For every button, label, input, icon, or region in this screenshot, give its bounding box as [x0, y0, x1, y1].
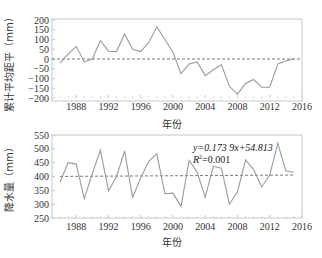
- bottom-x-axis-label: 年份: [162, 236, 182, 248]
- x-tick-label: 2000: [163, 221, 183, 232]
- x-tick-label: 2016: [292, 221, 312, 232]
- figure: 200150100500−50−100−150−200 198819921996…: [0, 0, 322, 258]
- x-tick-label: 2004: [195, 221, 215, 232]
- x-tick-label: 1988: [66, 101, 86, 112]
- x-tick-label: 2008: [227, 221, 247, 232]
- top-x-axis-label: 年份: [162, 118, 182, 130]
- y-tick-label: 550: [34, 130, 49, 141]
- y-tick-label: 400: [34, 171, 49, 182]
- y-tick-label: 350: [34, 185, 49, 196]
- x-tick-label: 2000: [163, 101, 183, 112]
- x-tick-label: 1992: [98, 101, 118, 112]
- top-x-axis-ticks: 19881992199620002004200820122016: [60, 95, 312, 112]
- x-tick-label: 1996: [131, 101, 151, 112]
- x-tick-label: 2008: [227, 101, 247, 112]
- x-tick-label: 1996: [131, 221, 151, 232]
- x-tick-label: 2016: [292, 101, 312, 112]
- y-tick-label: 450: [34, 157, 49, 168]
- trend-equation: y=0.173 9x+54.813: [192, 142, 273, 153]
- y-tick-label: 500: [34, 143, 49, 154]
- top-series-line: [60, 27, 294, 94]
- y-tick-label: −200: [28, 93, 49, 104]
- x-tick-label: 2012: [260, 101, 280, 112]
- top-y-axis-ticks: 200150100500−50−100−150−200: [28, 15, 55, 104]
- y-tick-label: 300: [34, 199, 49, 210]
- x-tick-label: 2012: [260, 221, 280, 232]
- bottom-y-axis-label: 降水量（mm）: [3, 142, 15, 211]
- top-chart-cumulative-anomaly: 200150100500−50−100−150−200 198819921996…: [3, 12, 312, 130]
- x-tick-label: 1992: [98, 221, 118, 232]
- trend-r2: R2=0.001: [192, 154, 230, 165]
- x-tick-label: 2004: [195, 101, 215, 112]
- top-y-axis-label: 累计平均距平（mm）: [3, 12, 15, 111]
- bottom-trend-line: [60, 175, 294, 176]
- y-tick-label: 250: [34, 213, 49, 224]
- x-tick-label: 1988: [66, 221, 86, 232]
- bottom-chart-precipitation: 550500450400350300250 198819921996200020…: [3, 130, 312, 249]
